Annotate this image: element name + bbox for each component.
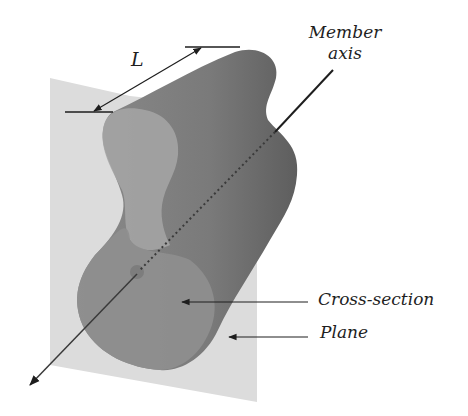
length-label: L — [131, 50, 144, 69]
diagram-graphic — [0, 0, 468, 416]
member-axis-label-line1: Member — [304, 22, 386, 43]
plane-label: Plane — [320, 324, 368, 341]
centroid-dot — [130, 265, 144, 279]
member-axis-line-top — [275, 70, 333, 132]
member-cross-section-diagram: L Member axis Cross-section Plane — [0, 0, 468, 416]
cross-section-label: Cross-section — [318, 291, 434, 308]
member-axis-label-line2: axis — [304, 43, 386, 64]
member-axis-label: Member axis — [304, 22, 386, 64]
